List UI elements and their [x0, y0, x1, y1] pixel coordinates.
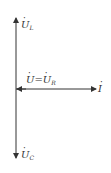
label-u-equals-ur: U=UR — [26, 75, 56, 86]
phasor-diagram — [0, 0, 111, 173]
label-uc: UC — [21, 150, 34, 161]
label-i: I — [98, 84, 102, 94]
label-ul: UL — [21, 20, 33, 31]
